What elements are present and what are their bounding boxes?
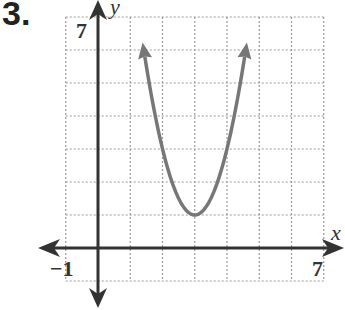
x-axis-label: x	[330, 220, 341, 245]
x-max-tick-label: 7	[312, 256, 323, 281]
y-max-tick-label: 7	[76, 18, 87, 43]
x-min-tick-label: −1	[50, 256, 74, 281]
grid	[66, 17, 324, 281]
parabola-curve	[145, 56, 245, 215]
x-axis	[38, 239, 344, 257]
y-axis	[89, 0, 107, 308]
graph: y x 7 −1 7	[0, 0, 345, 310]
y-axis-label: y	[108, 0, 120, 19]
